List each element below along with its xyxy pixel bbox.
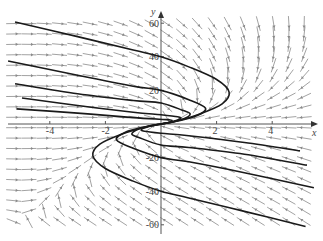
field-arrow: [114, 21, 128, 26]
field-arrow: [267, 187, 280, 194]
field-arrow: [176, 207, 189, 215]
field-arrow: [191, 186, 204, 194]
arrowhead-icon: [77, 85, 80, 88]
arrowhead-icon: [61, 85, 64, 88]
arrowhead-icon: [31, 137, 34, 140]
arrowhead-icon: [287, 56, 290, 59]
field-arrow: [114, 217, 127, 225]
arrowhead-icon: [61, 95, 64, 98]
field-arrow: [98, 117, 113, 118]
field-arrow: [129, 62, 143, 68]
field-arrow: [129, 105, 144, 109]
arrowhead-icon: [16, 168, 19, 171]
field-arrow: [266, 116, 281, 118]
field-arrow: [160, 197, 173, 205]
field-arrow: [175, 166, 188, 173]
field-arrow: [281, 127, 296, 128]
field-arrow: [282, 187, 295, 194]
field-arrow: [298, 207, 311, 215]
arrowhead-icon: [61, 105, 64, 108]
field-arrow: [266, 105, 280, 109]
field-arrow: [236, 127, 251, 128]
arrowhead-icon: [31, 188, 34, 191]
arrowhead-icon: [73, 186, 76, 189]
arrowhead-icon: [92, 126, 95, 129]
arrowhead-icon: [58, 196, 61, 199]
field-arrow: [236, 137, 251, 140]
arrowhead-icon: [16, 137, 19, 140]
arrowhead-icon: [16, 74, 19, 77]
field-arrow: [52, 138, 67, 139]
arrowhead-icon: [46, 43, 49, 46]
field-arrow: [221, 187, 234, 194]
field-arrow: [37, 158, 52, 159]
arrowhead-icon: [61, 53, 64, 56]
field-arrow: [206, 187, 219, 194]
arrowhead-icon: [16, 32, 19, 35]
arrowhead-icon: [15, 199, 18, 202]
plot-canvas: x y -4-224 604020-20-40-60: [0, 0, 323, 241]
field-arrow: [129, 41, 143, 47]
field-arrow: [282, 167, 296, 173]
field-arrow: [160, 207, 173, 215]
field-arrow: [100, 185, 111, 196]
field-arrow: [301, 48, 306, 62]
field-arrow: [129, 73, 143, 78]
arrowhead-icon: [107, 74, 110, 77]
field-arrow: [114, 32, 128, 37]
field-arrow: [69, 217, 81, 225]
field-arrow: [68, 157, 82, 161]
arrowhead-icon: [46, 84, 49, 87]
field-arrow: [236, 187, 249, 194]
arrowhead-icon: [61, 22, 64, 25]
field-arrow: [282, 93, 295, 100]
field-arrow: [83, 137, 98, 139]
field-arrow: [67, 64, 82, 66]
field-arrow: [113, 106, 128, 109]
arrowhead-icon: [16, 64, 19, 67]
field-arrow: [267, 207, 280, 215]
arrowhead-icon: [92, 22, 95, 25]
field-arrow: [72, 173, 79, 186]
field-arrow: [282, 105, 296, 109]
field-arrow: [223, 91, 232, 103]
field-arrow: [145, 62, 158, 69]
field-arrow: [67, 96, 82, 97]
field-arrow: [52, 86, 67, 87]
arrowhead-icon: [92, 116, 95, 119]
field-arrow: [130, 207, 142, 215]
field-arrow: [130, 164, 141, 174]
arrowhead-icon: [254, 116, 257, 119]
field-arrow: [115, 196, 127, 205]
arrowhead-icon: [16, 105, 19, 108]
arrowhead-icon: [46, 116, 49, 119]
field-arrow: [220, 116, 235, 118]
arrowhead-icon: [46, 157, 49, 160]
x-tick-label: 2: [213, 125, 218, 136]
field-arrow: [236, 146, 250, 150]
field-arrow: [83, 22, 98, 25]
field-arrow: [160, 135, 173, 142]
field-arrow: [67, 43, 82, 45]
field-arrow: [236, 116, 251, 118]
field-arrow: [37, 23, 52, 24]
arrowhead-icon: [61, 74, 64, 77]
arrowhead-icon: [31, 32, 34, 35]
field-arrow: [115, 207, 127, 216]
field-arrow: [83, 64, 98, 66]
field-arrow: [103, 152, 109, 166]
arrowhead-icon: [16, 189, 19, 192]
field-arrow: [55, 205, 65, 216]
arrowhead-icon: [223, 126, 226, 129]
field-arrow: [145, 165, 157, 174]
field-arrow: [297, 167, 311, 173]
field-arrow: [241, 37, 245, 52]
field-arrow: [130, 186, 142, 195]
field-arrow: [221, 103, 234, 110]
field-arrow: [6, 190, 21, 191]
field-arrow: [177, 70, 187, 81]
field-arrow: [237, 217, 250, 225]
field-arrow: [37, 188, 51, 193]
field-arrow: [37, 148, 52, 149]
arrowhead-icon: [300, 116, 303, 119]
